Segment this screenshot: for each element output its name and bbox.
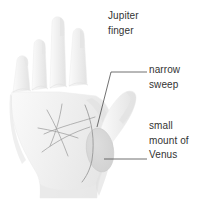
label-narrow-sweep: narrow sweep [149,63,180,92]
label-narrow-line-1: narrow [149,63,180,78]
label-narrow-line-2: sweep [149,78,180,93]
hand-illustration [0,0,201,211]
index-shape [69,28,87,86]
label-jupiter-line-1: Jupiter [108,9,139,24]
ring-finger [32,40,47,91]
label-small-mount-of-venus: small mount of Venus [149,119,189,163]
label-venus-line-1: small [149,119,189,134]
label-jupiter-line-2: finger [108,24,139,39]
index-jupiter-finger [69,28,87,86]
ring-shading [42,41,45,54]
label-jupiter-finger: Jupiter finger [108,9,139,38]
label-venus-line-3: Venus [149,148,189,163]
palmistry-diagram-figure: Jupiter finger narrow sweep small mount … [0,0,201,211]
pinky-finger [13,56,30,92]
label-venus-line-2: mount of [149,134,189,149]
middle-finger [50,17,66,88]
